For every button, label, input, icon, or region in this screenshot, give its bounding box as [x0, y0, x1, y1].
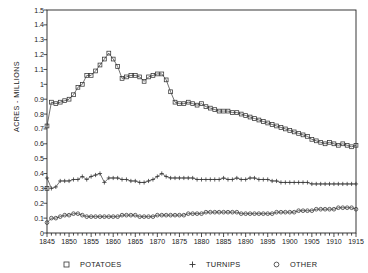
- chart-legend: POTATOESTURNIPSOTHER: [0, 258, 368, 270]
- plus-marker: [188, 260, 197, 269]
- plot-area: [0, 0, 368, 273]
- data-series-layer: [45, 51, 358, 224]
- circle-marker: [272, 260, 281, 269]
- series-potatoes: [45, 51, 358, 148]
- legend-item-turnips[interactable]: TURNIPS: [188, 258, 241, 270]
- axes-frame: [47, 10, 356, 233]
- legend-item-label: TURNIPS: [206, 260, 241, 269]
- square-marker: [62, 260, 71, 269]
- axis-tick-marks: [44, 10, 357, 237]
- legend-item-potatoes[interactable]: POTATOES: [62, 258, 121, 270]
- chart-container: ACRES - MILLIONS 00.10.20.30.40.50.60.70…: [0, 0, 368, 273]
- legend-item-label: POTATOES: [80, 260, 121, 269]
- legend-item-other[interactable]: OTHER: [272, 258, 317, 270]
- legend-item-label: OTHER: [290, 260, 317, 269]
- series-turnips: [45, 171, 358, 190]
- series-other: [45, 206, 358, 225]
